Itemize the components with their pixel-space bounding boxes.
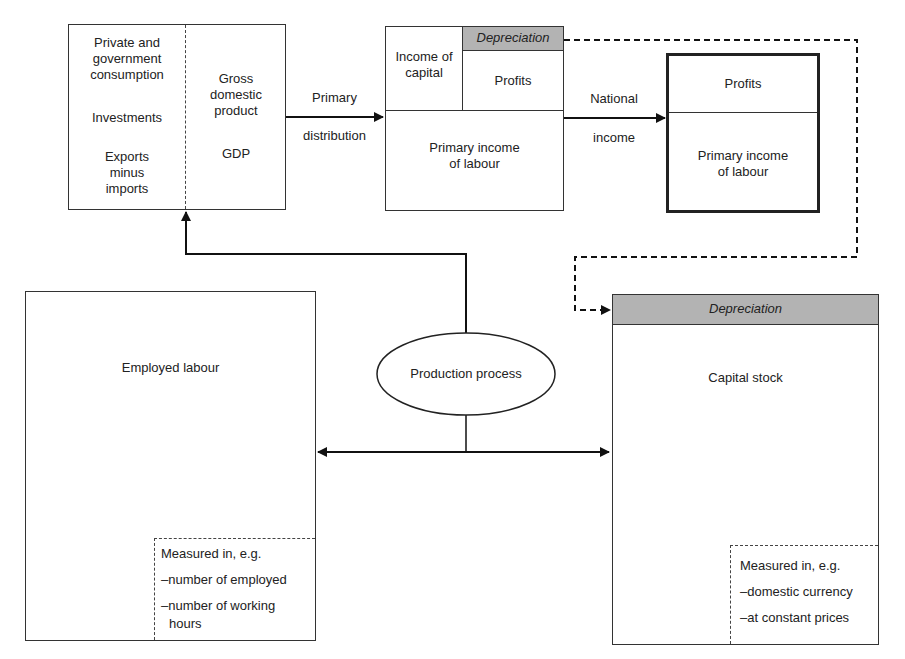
national-income-label-bottom: income <box>564 130 664 146</box>
consumption-label: Private and government consumption <box>69 35 185 83</box>
labour-measured-heading: Measured in, e.g. <box>161 546 261 562</box>
capital-measured-item-2: –at constant prices <box>740 610 849 626</box>
exports-label: Exports minus imports <box>69 149 185 197</box>
production-process-label: Production process <box>377 366 555 382</box>
labour-measured-box: Measured in, e.g. –number of employed –n… <box>154 538 315 640</box>
employed-labour-title: Employed labour <box>26 360 315 376</box>
depreciation-label: Depreciation <box>463 30 563 46</box>
primary-distribution-label-bottom: distribution <box>286 128 383 144</box>
profits-label: Profits <box>463 73 563 89</box>
capital-measured-item-1: –domestic currency <box>740 584 853 600</box>
gdp-full-label: Gross domestic product <box>187 71 285 119</box>
investments-label: Investments <box>69 110 185 126</box>
capital-stock-title: Capital stock <box>613 370 878 386</box>
capital-depreciation-bar: Depreciation <box>613 295 878 325</box>
capital-divider-horizontal <box>386 110 563 111</box>
capital-depreciation-label: Depreciation <box>613 301 878 317</box>
labour-measured-item-2: –number of working <box>161 598 275 614</box>
employed-labour-box: Employed labour Measured in, e.g. –numbe… <box>25 291 316 641</box>
labour-measured-item-1: –number of employed <box>161 572 287 588</box>
national-income-label-top: National <box>564 91 664 107</box>
primary-income-of-labour-label: Primary income of labour <box>386 140 563 172</box>
national-income-divider <box>669 112 817 113</box>
primary-distribution-label-top: Primary <box>286 90 383 106</box>
income-of-capital-label: Income of capital <box>386 49 462 81</box>
national-income-box: Profits Primary income of labour <box>666 53 820 213</box>
capital-measured-box: Measured in, e.g. –domestic currency –at… <box>730 545 878 644</box>
gdp-abbrev-label: GDP <box>187 146 285 162</box>
national-profits-label: Profits <box>669 76 817 92</box>
labour-measured-item-2-cont: hours <box>169 616 202 632</box>
depreciation-bar: Depreciation <box>463 27 563 51</box>
gdp-dashed-divider <box>185 25 186 209</box>
national-primary-income-of-labour-label: Primary income of labour <box>669 148 817 180</box>
capital-stock-box: Depreciation Capital stock Measured in, … <box>612 294 879 645</box>
gdp-box: Private and government consumption Inves… <box>68 24 286 210</box>
capital-measured-heading: Measured in, e.g. <box>740 558 840 574</box>
primary-income-box: Depreciation Income of capital Profits P… <box>385 26 564 211</box>
